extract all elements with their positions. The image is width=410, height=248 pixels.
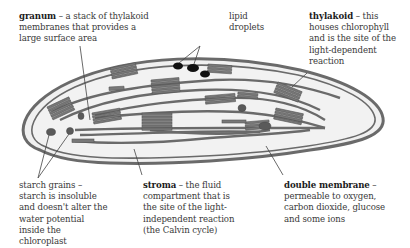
lipid-droplets-description: lipid droplets xyxy=(229,11,264,32)
double-membrane-label: double membrane – permeable to oxygen, c… xyxy=(284,180,394,225)
granum-label: granum – a stack of thylakoid membranes … xyxy=(19,11,149,45)
lipid-droplets-label: lipid droplets xyxy=(229,11,279,33)
thylakoid-label: thylakoid – this houses chlorophyll and … xyxy=(309,11,399,67)
double-membrane-term: double membrane xyxy=(284,180,370,190)
starch-grains-label: starch grains – starch is insoluble and … xyxy=(19,180,111,247)
thylakoid-term: thylakoid xyxy=(309,11,353,21)
stroma-label: stroma – the fluid compartment that is t… xyxy=(143,180,241,236)
granum-term: granum xyxy=(19,11,56,21)
stroma-term: stroma xyxy=(143,180,176,190)
starch-grains-description: starch grains – starch is insoluble and … xyxy=(19,180,107,246)
